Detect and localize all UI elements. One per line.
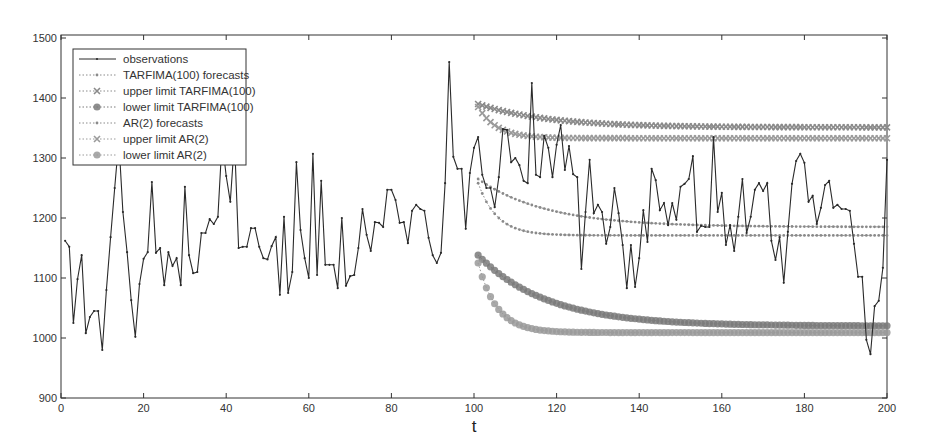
- data-point: [518, 228, 521, 231]
- data-point: [753, 234, 756, 237]
- x-tick-label: 200: [878, 402, 896, 414]
- data-point: [712, 136, 714, 138]
- data-point: [465, 228, 467, 230]
- data-point: [779, 236, 781, 238]
- legend-label: observations: [123, 53, 188, 65]
- data-point: [717, 211, 719, 213]
- data-point: [337, 287, 339, 289]
- data-point: [576, 234, 579, 237]
- data-point: [510, 161, 512, 163]
- data-point: [654, 222, 657, 225]
- data-point: [93, 310, 95, 312]
- data-point: [869, 234, 872, 237]
- data-point: [869, 225, 872, 228]
- legend-label: TARFIMA(100) forecasts: [123, 69, 250, 81]
- data-point: [295, 161, 297, 163]
- data-point: [572, 234, 575, 237]
- data-point: [563, 233, 566, 236]
- data-point: [188, 254, 190, 256]
- data-point: [865, 234, 868, 237]
- data-point: [506, 194, 509, 197]
- data-point: [857, 276, 859, 278]
- data-point: [592, 234, 595, 237]
- data-point: [716, 224, 719, 227]
- data-point: [109, 236, 111, 238]
- data-point: [576, 176, 578, 178]
- data-point: [679, 234, 682, 237]
- data-point: [258, 246, 260, 248]
- data-point: [588, 234, 591, 237]
- data-point: [291, 271, 293, 273]
- data-point: [712, 234, 715, 237]
- data-point: [266, 258, 268, 260]
- data-point: [514, 198, 517, 201]
- data-point: [246, 246, 248, 248]
- data-point: [316, 274, 318, 276]
- data-point: [836, 204, 838, 206]
- legend-marker: [93, 103, 100, 110]
- data-point: [861, 234, 864, 237]
- data-point: [415, 204, 417, 206]
- data-point: [625, 234, 628, 237]
- data-point: [836, 234, 839, 237]
- data-point: [176, 257, 178, 259]
- data-point: [807, 201, 809, 203]
- data-point: [440, 252, 442, 254]
- data-point: [332, 264, 334, 266]
- data-point: [192, 272, 194, 274]
- data-point: [696, 231, 698, 233]
- data-point: [811, 234, 814, 237]
- data-point: [481, 180, 484, 183]
- data-point: [200, 232, 202, 234]
- data-point: [848, 234, 851, 237]
- data-point: [432, 254, 434, 256]
- data-point: [882, 267, 884, 269]
- data-point: [750, 216, 752, 218]
- data-point: [483, 284, 490, 291]
- data-point: [568, 145, 570, 147]
- data-point: [427, 237, 429, 239]
- data-point: [626, 287, 628, 289]
- data-point: [89, 316, 91, 318]
- data-point: [815, 234, 818, 237]
- data-point: [601, 211, 603, 213]
- data-point: [683, 234, 686, 237]
- data-point: [436, 262, 438, 264]
- data-point: [708, 226, 710, 228]
- data-point: [795, 234, 798, 237]
- data-point: [539, 232, 542, 235]
- data-point: [485, 200, 488, 203]
- data-point: [510, 196, 513, 199]
- y-tick-label: 1200: [33, 212, 57, 224]
- data-point: [613, 234, 616, 237]
- data-point: [217, 216, 219, 218]
- data-point: [209, 218, 211, 220]
- legend-label: AR(2) forecasts: [123, 117, 203, 129]
- data-point: [741, 234, 744, 237]
- data-point: [487, 293, 494, 300]
- data-point: [485, 187, 487, 189]
- data-point: [658, 234, 661, 237]
- data-point: [844, 225, 847, 228]
- data-point: [444, 182, 446, 184]
- data-point: [883, 322, 890, 329]
- data-point: [584, 234, 587, 237]
- data-point: [403, 221, 405, 223]
- data-point: [551, 209, 554, 212]
- data-point: [687, 234, 690, 237]
- data-point: [134, 336, 136, 338]
- data-point: [688, 178, 690, 180]
- y-tick-label: 1100: [33, 272, 57, 284]
- data-point: [510, 225, 513, 228]
- data-point: [572, 173, 574, 175]
- data-point: [853, 225, 856, 228]
- legend-marker: [96, 122, 99, 125]
- data-point: [667, 224, 669, 226]
- data-point: [671, 223, 674, 226]
- data-point: [601, 234, 604, 237]
- data-point: [745, 232, 747, 234]
- data-point: [687, 223, 690, 226]
- data-point: [857, 234, 860, 237]
- data-point: [642, 234, 645, 237]
- data-point: [638, 234, 641, 237]
